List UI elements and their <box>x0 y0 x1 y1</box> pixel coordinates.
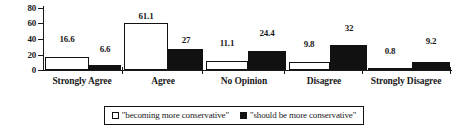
bar-becoming-strongly-agree <box>45 57 89 70</box>
bar-label-should-disagree: 32 <box>329 24 369 33</box>
bar-becoming-no-opinion <box>206 61 248 70</box>
bar-becoming-agree <box>124 23 168 70</box>
bar-should-agree <box>168 49 203 70</box>
x-category-label-strongly-agree: Strongly Agree <box>38 76 126 87</box>
bar-should-no-opinion <box>248 51 286 70</box>
bar-becoming-disagree <box>289 62 330 70</box>
y-tick-label-20: 20 <box>2 51 36 60</box>
plot-area: 16.6 6.6 61.1 27 11.1 24.4 9.8 32 0.8 9.… <box>44 8 452 70</box>
legend-swatch-open-icon <box>112 112 119 119</box>
bar-should-strongly-agree <box>89 65 121 70</box>
bar-label-becoming-strongly-agree: 16.6 <box>47 35 87 44</box>
y-tick-label-60: 60 <box>2 19 36 28</box>
bar-should-disagree <box>330 45 367 70</box>
bar-label-should-agree: 27 <box>166 36 206 45</box>
chart-legend: "becoming more conservative" "should be … <box>104 106 364 125</box>
legend-label-should: "should be more conservative" <box>250 111 356 120</box>
legend-swatch-solid-icon <box>240 112 247 119</box>
x-axis-line <box>43 70 452 71</box>
bar-label-becoming-strongly-disagree: 0.8 <box>370 47 410 56</box>
bar-label-should-no-opinion: 24.4 <box>247 29 287 38</box>
x-category-label-disagree: Disagree <box>288 76 360 87</box>
bar-label-becoming-no-opinion: 11.1 <box>207 39 247 48</box>
bar-label-should-strongly-agree: 6.6 <box>85 45 125 54</box>
x-category-label-strongly-disagree: Strongly Disagree <box>356 76 456 87</box>
bar-label-becoming-agree: 61.1 <box>126 12 166 21</box>
x-category-label-no-opinion: No Opinion <box>208 76 280 87</box>
x-category-label-agree: Agree <box>128 76 198 87</box>
y-tick-label-80: 80 <box>2 4 36 13</box>
bar-label-becoming-disagree: 9.8 <box>289 40 329 49</box>
y-tick-label-0: 0 <box>2 66 36 75</box>
bar-becoming-strongly-disagree <box>368 68 412 70</box>
y-tick-label-40: 40 <box>2 35 36 44</box>
legend-item-becoming: "becoming more conservative" <box>112 111 229 120</box>
bar-chart: 80 60 40 20 0 16.6 6.6 61.1 27 11.1 24.4 <box>0 0 463 128</box>
legend-label-becoming: "becoming more conservative" <box>122 111 229 120</box>
bar-label-should-strongly-disagree: 9.2 <box>411 37 451 46</box>
legend-item-should: "should be more conservative" <box>240 111 356 120</box>
bar-should-strongly-disagree <box>412 62 450 70</box>
